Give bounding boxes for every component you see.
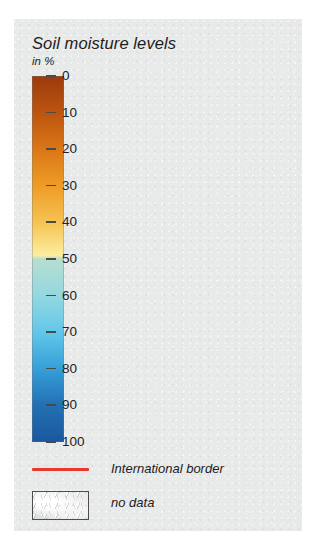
no-data-texture-swatch (32, 491, 89, 520)
tick-label: 80 (62, 360, 77, 378)
tick-label: 60 (62, 287, 77, 305)
tick-mark (46, 148, 56, 150)
tick-label: 0 (62, 67, 70, 85)
tick-mark (46, 441, 56, 443)
legend-item-no-data: no data (32, 489, 282, 519)
legend-panel: Soil moisture levels in % 01020304050607… (14, 19, 302, 531)
tick-label: 50 (62, 250, 77, 268)
tick-mark (46, 185, 56, 187)
tick-mark (46, 112, 56, 114)
tick-label: 20 (62, 140, 77, 158)
tick-label: 10 (62, 104, 77, 122)
tick-label: 100 (62, 433, 85, 451)
legend-title: Soil moisture levels (32, 34, 176, 53)
tick-mark (46, 368, 56, 370)
tick-mark (46, 331, 56, 333)
tick-mark (46, 295, 56, 297)
tick-mark (46, 221, 56, 223)
tick-mark (46, 258, 56, 260)
international-border-line-swatch (32, 468, 89, 471)
tick-label: 30 (62, 177, 77, 195)
tick-label: 40 (62, 213, 77, 231)
legend-item-label: no data (111, 493, 154, 513)
legend-item-international-border: International border (32, 459, 282, 479)
tick-mark (46, 75, 56, 77)
legend-item-label: International border (111, 459, 224, 479)
tick-mark (46, 404, 56, 406)
legend-unit-label: in % (32, 55, 54, 67)
tick-label: 90 (62, 396, 77, 414)
tick-label: 70 (62, 323, 77, 341)
